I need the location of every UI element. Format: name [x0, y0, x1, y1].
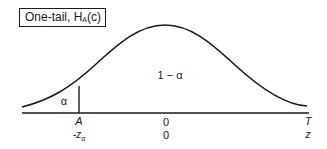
rejection-region-label: α [61, 95, 67, 107]
z-axis-label: z [305, 128, 311, 140]
center-top-label: 0 [163, 116, 169, 128]
critical-z-label: -zα [73, 129, 85, 142]
test-statistic-label: T [305, 115, 312, 127]
center-bottom-label: 0 [163, 129, 169, 141]
critical-value-label: A [75, 115, 82, 127]
acceptance-region-label: 1 − α [157, 69, 182, 81]
